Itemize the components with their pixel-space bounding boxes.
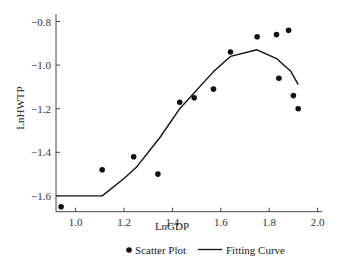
scatter-point	[286, 27, 292, 33]
scatter-point	[58, 204, 64, 210]
plot-area	[56, 27, 301, 209]
fitting-curve	[56, 50, 298, 196]
scatter-point	[274, 32, 280, 38]
x-tick-label: 1.6	[214, 216, 228, 228]
scatter-point	[155, 171, 161, 177]
y-axis-label: LnHWTP	[14, 86, 26, 129]
legend: Scatter Plot Fitting Curve	[126, 244, 285, 256]
scatter-point	[131, 154, 137, 160]
x-tick-label: 1.0	[69, 216, 83, 228]
x-axis-label: LnGDP	[155, 220, 189, 232]
scatter-point	[211, 86, 217, 92]
y-tick-label: −1.2	[31, 103, 51, 115]
y-tick-label: −1.0	[31, 59, 51, 71]
scatter-point	[191, 95, 197, 101]
y-tick-label: −0.8	[31, 16, 51, 28]
scatter-point	[99, 167, 105, 173]
x-tick-label: 2.0	[311, 216, 325, 228]
x-tick-label: 1.8	[262, 216, 276, 228]
scatter-point	[276, 75, 282, 81]
scatter-point	[228, 49, 234, 55]
y-tick-label: −1.6	[31, 190, 51, 202]
legend-scatter-label: Scatter Plot	[135, 244, 186, 256]
scatter-point	[295, 106, 301, 112]
legend-scatter-marker-icon	[126, 247, 132, 253]
scatter-point	[291, 93, 297, 99]
scatter-point	[177, 99, 183, 105]
x-tick-label: 1.2	[117, 216, 131, 228]
scatter-point	[254, 34, 260, 40]
y-axis: −0.8−1.0−1.2−1.4−1.6	[31, 14, 60, 212]
x-axis: 1.01.21.41.61.82.0	[56, 208, 325, 228]
y-tick-label: −1.4	[31, 146, 51, 158]
chart: −0.8−1.0−1.2−1.4−1.6 1.01.21.41.61.82.0 …	[0, 0, 344, 268]
legend-curve-label: Fitting Curve	[226, 244, 285, 256]
